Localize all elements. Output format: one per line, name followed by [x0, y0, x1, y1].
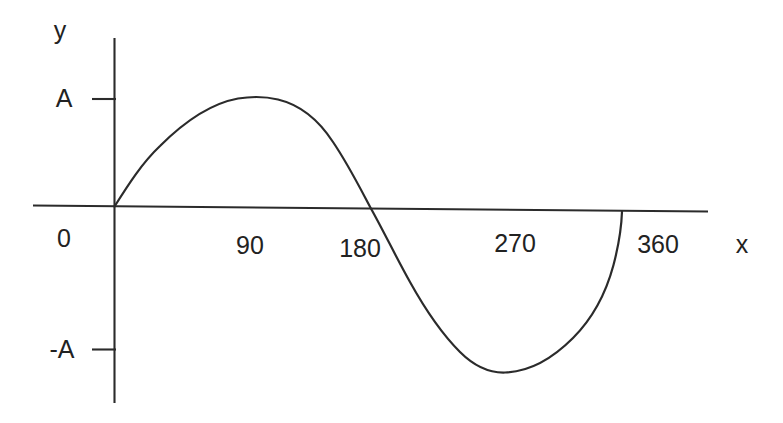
x-tick-label-360: 360	[637, 230, 679, 258]
sine-wave-chart: y x A -A 0 90 180 270 360	[0, 0, 783, 423]
y-axis-label: y	[54, 16, 67, 44]
y-tick-label-negative-amplitude: -A	[50, 335, 75, 363]
x-tick-label-90: 90	[236, 231, 264, 259]
x-tick-label-180: 180	[339, 234, 381, 262]
y-tick-label-amplitude: A	[56, 84, 73, 112]
x-axis-label: x	[736, 230, 749, 258]
x-tick-label-270: 270	[494, 229, 536, 257]
x-tick-label-origin: 0	[57, 224, 71, 252]
